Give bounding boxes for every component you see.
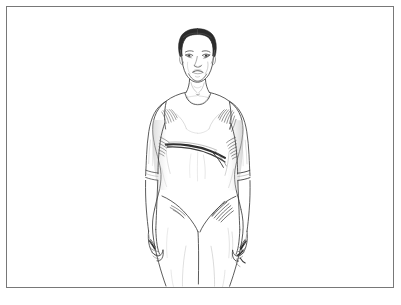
image-canvas: Standing female figure in leotard Monoch… [0,0,401,305]
leotard-torso-group [152,92,243,286]
head-group [178,29,216,83]
figure-drawing [0,0,401,305]
